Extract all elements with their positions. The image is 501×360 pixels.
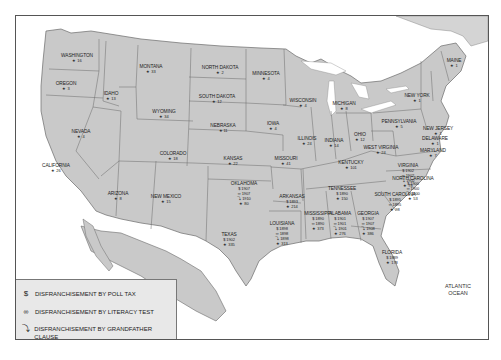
- state-label-maryland: MARYLAND★ 7: [420, 148, 446, 158]
- lynchings-count: ★ 8: [332, 106, 355, 111]
- dollar-sign-icon: $: [20, 290, 32, 297]
- grandfather-clause-icon: ⤵: [20, 325, 31, 332]
- lynchings-count: ★ 12: [199, 99, 235, 104]
- atlantic-ocean-label: ATLANTIC OCEAN: [445, 283, 471, 297]
- state-label-florida: FLORIDA$ 1889★ 178: [382, 250, 402, 265]
- lynchings-count: ★ 4: [290, 103, 317, 108]
- spectacles-icon: ∞: [20, 308, 32, 315]
- state-label-missouri: MISSOURI★ 41: [275, 156, 298, 166]
- state-label-montana: MONTANA★ 33: [140, 64, 163, 74]
- state-label-nebraska: NEBRASKA★ 11: [210, 123, 235, 133]
- lynchings-count: ★ 276: [329, 231, 351, 236]
- state-label-indiana: INDIANA★ 14: [325, 138, 344, 148]
- map-legend: $ DISFRANCHISEMENT BY POLL TAX ∞ DISFRAN…: [16, 279, 177, 340]
- lynchings-count: ★ 80: [231, 201, 257, 206]
- state-label-new-mexico: NEW MEXICO★ 15: [151, 194, 181, 204]
- lynchings-count: ★ 33: [140, 69, 163, 74]
- lynchings-count: ★ 386: [357, 231, 379, 236]
- lynchings-count: ★ 4: [72, 134, 91, 139]
- lynchings-count: ★ 41: [275, 161, 298, 166]
- lynchings-count: ★ 3: [56, 86, 77, 91]
- lynchings-count: ★ 335: [221, 242, 236, 247]
- state-label-texas: TEXAS$ 1902★ 335: [221, 232, 236, 247]
- lynchings-count: ★ 178: [382, 260, 402, 265]
- legend-item-grandfather-clause: ⤵ DISFRANCHISEMENT BY GRANDFATHER CLAUSE: [20, 325, 170, 340]
- state-label-louisiana: LOUISIANA$ 1898∞ 1898⤵ 1898★ 313: [270, 221, 295, 246]
- lynchings-count: ★ 1: [447, 63, 462, 68]
- state-label-nevada: NEVADA★ 4: [72, 129, 91, 139]
- lynchings-count: ★ 313: [270, 241, 295, 246]
- lynchings-count: ★ 24: [364, 150, 399, 155]
- state-label-ohio: OHIO★ 12: [354, 132, 366, 142]
- lynchings-count: ★ 4: [267, 126, 279, 131]
- lynchings-count: ★ 1: [404, 98, 429, 103]
- lynchings-count: ★ 11: [210, 128, 235, 133]
- state-label-kansas: KANSAS★ 22: [224, 156, 243, 166]
- state-label-illinois: ILLINOIS★ 24: [298, 136, 317, 146]
- state-label-pennsylvania: PENNSYLVANIA★ 5: [382, 119, 417, 129]
- lynchings-count: ★ 16: [61, 58, 93, 63]
- state-label-mississippi: MISSISSIPPI$ 1890∞ 1890★ 373: [304, 211, 331, 231]
- state-label-delaware: DELAWARE★ 1: [422, 136, 448, 146]
- state-label-new-york: NEW YORK★ 1: [404, 93, 429, 103]
- state-label-iowa: IOWA★ 4: [267, 121, 279, 131]
- state-label-colorado: COLORADO★ 18: [160, 151, 187, 161]
- lynchings-count: ★ 14: [325, 143, 344, 148]
- state-label-north-dakota: NORTH DAKOTA★ 2: [202, 65, 238, 75]
- lynchings-count: ★ 15: [151, 199, 181, 204]
- lynchings-count: ★ 8: [108, 196, 129, 201]
- lynchings-count: ★ 13: [104, 96, 119, 101]
- state-label-michigan: MICHIGAN★ 8: [332, 101, 355, 111]
- lynchings-count: ★ 26: [42, 168, 70, 173]
- lynchings-count: ★ 101: [338, 165, 363, 170]
- map-frame: WASHINGTON★ 16OREGON★ 3IDAHO★ 13MONTANA★…: [15, 15, 489, 340]
- state-label-washington: WASHINGTON★ 16: [61, 53, 93, 63]
- state-label-kentucky: KENTUCKY★ 101: [338, 160, 363, 170]
- state-label-south-dakota: SOUTH DAKOTA★ 12: [199, 94, 235, 104]
- state-label-oklahoma: OKLAHOMA$ 1907∞ 1907⤵ 1910★ 80: [231, 181, 257, 206]
- lynchings-count: ★ 2: [202, 70, 238, 75]
- lynchings-count: ★ 98: [374, 207, 415, 212]
- state-label-south-carolina: SOUTH CAROLINA$ 1895∞ 1895★ 98: [374, 192, 415, 212]
- lynchings-count: ★ 5: [382, 124, 417, 129]
- state-label-california: CALIFORNIA★ 26: [42, 163, 70, 173]
- state-label-new-jersey: NEW JERSEY★ 1: [423, 126, 453, 136]
- state-label-maine: MAINE★ 1: [447, 58, 462, 68]
- state-label-west-virginia: WEST VIRGINIA★ 24: [364, 145, 399, 155]
- state-label-georgia: GEORGIA$ 1907∞ 1907⤵ 1908★ 386: [357, 211, 379, 236]
- lynchings-count: ★ 4: [252, 76, 279, 81]
- state-label-alabama: ALABAMA$ 1901∞ 1901⤵ 1901★ 276: [329, 211, 351, 236]
- state-label-wisconsin: WISCONSIN★ 4: [290, 98, 317, 108]
- state-label-arkansas: ARKANSAS$ 1893★ 214: [279, 194, 304, 209]
- legend-item-poll-tax: $ DISFRANCHISEMENT BY POLL TAX: [20, 290, 136, 298]
- state-label-minnesota: MINNESOTA★ 4: [252, 71, 279, 81]
- state-label-wyoming: WYOMING★ 34: [152, 109, 175, 119]
- lynchings-count: ★ 24: [298, 141, 317, 146]
- legend-item-literacy-test: ∞ DISFRANCHISEMENT BY LITERACY TEST: [20, 308, 154, 316]
- state-label-arizona: ARIZONA★ 8: [108, 191, 129, 201]
- state-label-oregon: OREGON★ 3: [56, 81, 77, 91]
- lynchings-count: ★ 12: [354, 137, 366, 142]
- state-label-idaho: IDAHO★ 13: [104, 91, 119, 101]
- lynchings-count: ★ 1: [422, 141, 448, 146]
- lynchings-count: ★ 150: [328, 196, 356, 201]
- lynchings-count: ★ 18: [160, 156, 187, 161]
- lynchings-count: ★ 214: [279, 204, 304, 209]
- lynchings-count: ★ 373: [304, 226, 331, 231]
- state-label-tennessee: TENNESSEE$ 1890★ 150: [328, 186, 356, 201]
- lynchings-count: ★ 34: [152, 114, 175, 119]
- lynchings-count: ★ 7: [420, 153, 446, 158]
- lynchings-count: ★ 22: [224, 161, 243, 166]
